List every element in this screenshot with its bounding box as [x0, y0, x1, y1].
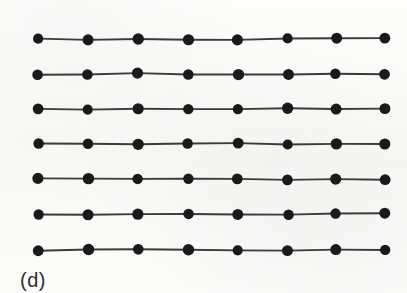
graph-node: [330, 69, 340, 79]
graph-node: [380, 245, 390, 255]
graph-node: [233, 104, 243, 114]
graph-node: [83, 105, 93, 115]
graph-node: [330, 174, 341, 185]
figure-caption: (d): [20, 269, 46, 291]
graph-node: [133, 244, 144, 255]
graph-edge: [336, 179, 385, 180]
graph-node: [83, 244, 94, 255]
graph-node: [233, 138, 244, 149]
graph-edge: [335, 74, 384, 75]
graph-node: [283, 69, 294, 80]
graph-node: [32, 173, 43, 184]
graph-node: [33, 209, 43, 219]
graph-node: [232, 173, 243, 184]
graph-edge: [88, 109, 138, 110]
graph-node: [183, 244, 194, 255]
graph-edge: [138, 39, 188, 40]
graph-node: [82, 69, 93, 80]
graph-node: [282, 245, 293, 256]
node-layer: [32, 33, 390, 256]
graph-node: [331, 138, 342, 149]
graph-edge: [189, 214, 238, 215]
graph-node: [331, 33, 342, 44]
graph-node: [83, 173, 94, 184]
graph-node: [133, 139, 144, 150]
graph-edge: [138, 73, 189, 74]
graph-edge: [138, 143, 187, 144]
graph-node: [379, 208, 390, 219]
graph-node: [282, 175, 293, 186]
graph-node: [132, 68, 143, 79]
graph-node: [380, 174, 391, 185]
graph-diagram: [0, 0, 407, 293]
graph-node: [233, 69, 244, 80]
graph-node: [182, 138, 192, 148]
graph-node: [133, 33, 144, 44]
graph-node: [282, 103, 293, 114]
graph-node: [282, 33, 292, 43]
graph-edge: [38, 250, 88, 251]
graph-node: [330, 208, 340, 218]
graph-node: [32, 69, 43, 80]
graph-node: [283, 209, 293, 219]
graph-edge: [38, 39, 88, 40]
graph-node: [33, 103, 44, 114]
graph-node: [183, 174, 193, 184]
graph-node: [330, 244, 341, 255]
graph-node: [233, 245, 243, 255]
graph-edge: [88, 39, 138, 40]
graph-node: [33, 245, 44, 256]
graph-edge: [237, 179, 287, 180]
figure-panel: (d): [0, 0, 407, 293]
graph-edge: [87, 73, 137, 74]
graph-edge: [288, 74, 335, 75]
graph-node: [132, 174, 142, 184]
graph-node: [183, 69, 194, 80]
graph-node: [33, 34, 43, 44]
graph-edge: [288, 108, 336, 109]
graph-node: [83, 34, 94, 45]
graph-node: [283, 139, 293, 149]
graph-node: [379, 33, 390, 44]
graph-node: [33, 138, 43, 148]
graph-edge: [289, 214, 336, 215]
graph-edge: [38, 109, 88, 110]
graph-edge: [88, 214, 138, 215]
graph-node: [379, 69, 390, 80]
graph-edge: [238, 143, 288, 144]
graph-node: [232, 34, 243, 45]
graph-node: [183, 209, 193, 219]
graph-node: [379, 138, 390, 149]
graph-edge: [88, 144, 138, 145]
graph-node: [133, 103, 144, 114]
graph-node: [83, 139, 94, 150]
graph-edge: [238, 108, 288, 109]
graph-node: [331, 104, 342, 115]
graph-edge: [287, 250, 335, 251]
graph-node: [379, 103, 390, 114]
graph-node: [82, 209, 93, 220]
graph-node: [183, 34, 194, 45]
graph-edge: [188, 250, 237, 251]
graph-edge: [237, 38, 287, 39]
graph-edge: [287, 179, 335, 180]
graph-node: [183, 104, 193, 114]
graph-node: [232, 209, 243, 220]
graph-node: [132, 209, 143, 220]
graph-edge: [288, 144, 337, 145]
